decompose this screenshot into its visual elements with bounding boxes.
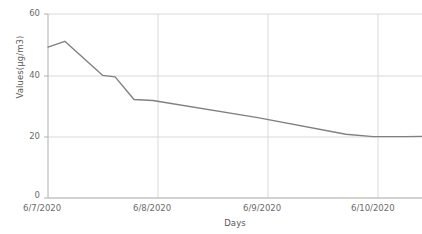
x-tick-label-2: 6/9/2020 [243,203,281,213]
line-chart: 0 20 40 60 6/7/2020 6/8/2020 6/9/2020 6/… [0,0,422,234]
x-axis-title: Days [48,218,422,228]
y-tick-marks [44,14,48,198]
y-tick-label-20: 20 [14,131,40,141]
x-tick-label-0: 6/7/2020 [23,203,61,213]
x-tick-label-1: 6/8/2020 [133,203,171,213]
plot-area [0,0,422,234]
x-tick-label-3: 6/10/2020 [351,203,395,213]
y-tick-label-0: 0 [14,190,40,200]
y-axis-title: Values(µg/m3) [15,7,25,127]
data-series-line [48,41,422,136]
gridlines-vertical [158,14,378,198]
